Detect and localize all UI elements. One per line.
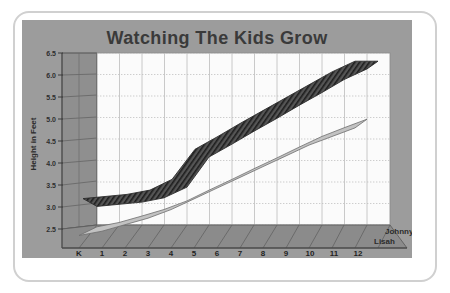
x-tick-9: 9 [284, 249, 289, 258]
legend-label-johnny: Johnny [385, 227, 412, 236]
y-tick-5-5: 5.5 [46, 94, 56, 101]
x-tick-8: 8 [261, 249, 266, 258]
x-tick-1: 1 [100, 249, 105, 258]
x-tick-5: 5 [192, 249, 197, 258]
chart-plate: Watching The Kids Grow [22, 20, 412, 258]
x-tick-4: 4 [169, 249, 174, 258]
y-tick-4-0: 4.0 [46, 160, 56, 167]
x-tick-11: 11 [330, 249, 339, 258]
y-tick-3-0: 3.0 [46, 204, 56, 211]
x-tick-12: 12 [354, 249, 363, 258]
x-tick-6: 6 [215, 249, 220, 258]
x-axis: K 1 2 3 4 5 6 7 8 9 10 11 12 [76, 249, 363, 258]
chart-page: Watching The Kids Grow [0, 0, 450, 293]
y-axis: 6.5 6.0 5.5 5.0 4.5 4.0 3.5 3.0 2.5 Heig… [29, 50, 63, 233]
legend-label-lisah: Lisah [374, 237, 395, 246]
y-tick-2-5: 2.5 [46, 226, 56, 233]
x-tick-k: K [76, 249, 82, 258]
y-tick-6-0: 6.0 [46, 72, 56, 79]
y-tick-4-5: 4.5 [46, 138, 56, 145]
x-tick-10: 10 [306, 249, 315, 258]
x-tick-7: 7 [238, 249, 243, 258]
x-tick-2: 2 [123, 249, 128, 258]
y-tick-6-5: 6.5 [46, 50, 56, 57]
y-axis-title: Height in Feet [29, 117, 38, 170]
chart-canvas: 6.5 6.0 5.5 5.0 4.5 4.0 3.5 3.0 2.5 Heig… [22, 20, 412, 258]
x-tick-3: 3 [146, 249, 151, 258]
y-tick-3-5: 3.5 [46, 182, 56, 189]
chart-floor [62, 225, 407, 248]
y-tick-5-0: 5.0 [46, 116, 56, 123]
